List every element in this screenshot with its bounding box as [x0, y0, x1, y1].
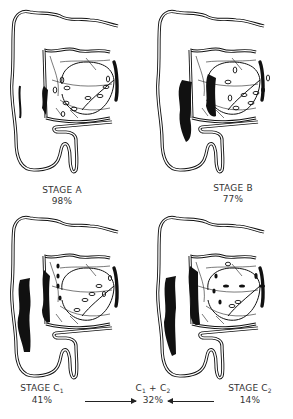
stage-c2-label: STAGE C2 — [228, 383, 272, 394]
stage-b-label: STAGE B — [213, 183, 253, 193]
colon-illustration-stage-c2 — [146, 206, 292, 381]
stage-c2-survival: 14% — [240, 395, 261, 405]
colon-illustration-stage-a — [0, 0, 146, 175]
stage-a-survival: 98% — [52, 196, 73, 206]
combined-plus: + — [146, 383, 160, 393]
colon-illustration-stage-b — [146, 0, 292, 175]
stage-c2-label-sub: 2 — [268, 387, 272, 394]
combined-c2-sub: 2 — [166, 387, 170, 394]
arrow-c2-to-combined — [168, 401, 214, 402]
panel-stage-c1 — [0, 206, 146, 381]
colon-illustration-stage-c1 — [0, 206, 146, 381]
stage-c1-label-main: STAGE C — [20, 383, 60, 393]
panel-stage-a — [0, 0, 146, 175]
stage-a-label: STAGE A — [42, 185, 82, 195]
arrow-c1-to-combined — [85, 401, 136, 402]
stage-c1-label-sub: 1 — [60, 387, 64, 394]
stage-c1-survival: 41% — [32, 395, 53, 405]
panel-stage-b — [146, 0, 292, 175]
combined-c1-c2-label: C1 + C2 — [136, 383, 171, 394]
stage-c2-label-main: STAGE C — [228, 383, 268, 393]
panel-stage-c2 — [146, 206, 292, 381]
combined-survival: 32% — [143, 395, 164, 405]
stage-b-survival: 77% — [223, 194, 244, 204]
stage-c1-label: STAGE C1 — [20, 383, 64, 394]
